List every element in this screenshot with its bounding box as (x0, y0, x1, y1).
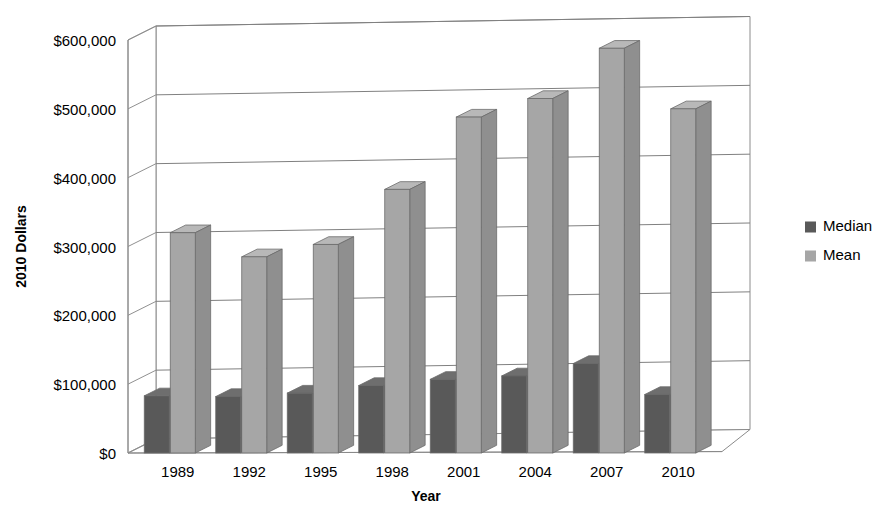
bar-front-face (528, 99, 553, 453)
bar-side-face (410, 182, 425, 453)
bar-chart-3d: $0$100,000$200,000$300,000$400,000$500,0… (0, 0, 889, 532)
bar-column (528, 91, 568, 453)
legend-swatch-median (805, 222, 816, 233)
bar-column (242, 249, 282, 453)
bar-side-face (624, 41, 639, 453)
bar-side-face (553, 91, 568, 453)
bar-front-face (573, 364, 598, 453)
y-axis-tick-label: $300,000 (53, 239, 116, 256)
bar-front-face (645, 394, 670, 453)
y-axis-tick-label: $200,000 (53, 307, 116, 324)
bar-front-face (313, 244, 338, 453)
bar-front-face (502, 376, 527, 453)
chart-container: $0$100,000$200,000$300,000$400,000$500,0… (0, 0, 889, 532)
y-axis-tick-label: $100,000 (53, 376, 116, 393)
bar-front-face (287, 393, 312, 453)
bar-front-face (671, 109, 696, 453)
bar-front-face (599, 48, 624, 453)
legend-swatch-mean (805, 251, 816, 262)
x-axis-tick-label: 1995 (304, 463, 337, 480)
bar-side-face (481, 109, 496, 453)
bar-side-face (195, 225, 210, 453)
bar-front-face (359, 386, 384, 453)
x-axis-tick-label: 1989 (161, 463, 194, 480)
y-axis-tick-label: $0 (99, 445, 116, 462)
x-axis-tick-label: 2007 (590, 463, 623, 480)
x-axis-tick-label: 1992 (233, 463, 266, 480)
legend-label-mean: Mean (823, 246, 861, 263)
x-axis-tick-label: 2004 (519, 463, 552, 480)
bar-column (313, 237, 353, 453)
x-axis-tick-label: 1998 (376, 463, 409, 480)
bar-column (671, 101, 711, 453)
y-axis-title: 2010 Dollars (13, 205, 29, 288)
y-axis-tick-label: $400,000 (53, 170, 116, 187)
y-axis-tick-label: $600,000 (53, 32, 116, 49)
bar-front-face (242, 257, 267, 453)
bar-side-face (338, 237, 353, 453)
x-axis-tick-label: 2001 (447, 463, 480, 480)
x-axis-title: Year (411, 488, 441, 504)
bar-column (456, 109, 496, 453)
bar-front-face (430, 379, 455, 453)
bar-front-face (216, 397, 241, 453)
x-axis-tick-label: 2010 (662, 463, 695, 480)
bar-front-face (456, 117, 481, 453)
bar-side-face (696, 101, 711, 453)
bar-column (385, 182, 425, 453)
bar-front-face (144, 396, 169, 453)
bar-front-face (170, 233, 195, 453)
bar-column (599, 41, 639, 453)
legend-label-median: Median (823, 217, 872, 234)
bar-column (170, 225, 210, 453)
y-axis-tick-label: $500,000 (53, 101, 116, 118)
bar-side-face (267, 249, 282, 453)
bar-front-face (385, 189, 410, 453)
